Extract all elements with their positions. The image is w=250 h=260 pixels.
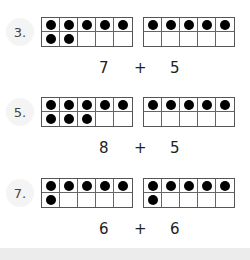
plus-operator: + xyxy=(134,220,147,238)
counter-dot-icon xyxy=(64,100,74,110)
counter-dot-icon xyxy=(46,195,56,205)
ten-frame-cell xyxy=(180,112,198,126)
ten-frame-right xyxy=(143,17,235,47)
ten-frame-cell xyxy=(78,179,96,193)
counter-dot-icon xyxy=(184,181,194,191)
counter-dot-icon xyxy=(82,181,92,191)
ten-frame-cell xyxy=(60,98,78,112)
ten-frame-cell xyxy=(198,98,216,112)
footer-band xyxy=(0,248,250,260)
counter-dot-icon xyxy=(184,100,194,110)
ten-frame-cell xyxy=(216,32,234,46)
problem-number-badge: 3. xyxy=(6,18,34,46)
problem-number: 3. xyxy=(14,25,26,40)
problem-number-badge: 5. xyxy=(6,98,34,126)
ten-frame-cell xyxy=(78,98,96,112)
problem-number-badge: 7. xyxy=(6,179,34,207)
counter-dot-icon xyxy=(46,114,56,124)
ten-frame-cell xyxy=(162,193,180,207)
counter-dot-icon xyxy=(46,20,56,30)
ten-frame-cell xyxy=(60,193,78,207)
ten-frame-cell xyxy=(216,18,234,32)
ten-frame-cell xyxy=(96,112,114,126)
ten-frame-cell xyxy=(144,179,162,193)
counter-dot-icon xyxy=(220,20,230,30)
ten-frame-cell xyxy=(180,32,198,46)
problem-number: 7. xyxy=(14,186,26,201)
equation: 6 + 6 xyxy=(0,220,250,238)
ten-frame-cell xyxy=(78,193,96,207)
addend-a: 6 xyxy=(99,220,109,238)
ten-frame-cell xyxy=(60,179,78,193)
ten-frame-cell xyxy=(216,112,234,126)
ten-frame-cell xyxy=(96,193,114,207)
counter-dot-icon xyxy=(202,20,212,30)
ten-frame-cell xyxy=(162,179,180,193)
counter-dot-icon xyxy=(166,100,176,110)
ten-frame-cell xyxy=(78,18,96,32)
ten-frame-cell xyxy=(42,193,60,207)
ten-frame-cell xyxy=(96,32,114,46)
ten-frame-cell xyxy=(60,32,78,46)
counter-dot-icon xyxy=(100,20,110,30)
ten-frame-cell xyxy=(162,112,180,126)
counter-dot-icon xyxy=(64,34,74,44)
ten-frame-cell xyxy=(144,112,162,126)
plus-operator: + xyxy=(134,59,147,77)
counter-dot-icon xyxy=(46,34,56,44)
addend-a: 7 xyxy=(99,59,109,77)
ten-frame-cell xyxy=(144,98,162,112)
counter-dot-icon xyxy=(166,181,176,191)
ten-frame-cell xyxy=(198,32,216,46)
ten-frame-cell xyxy=(180,98,198,112)
counter-dot-icon xyxy=(46,181,56,191)
ten-frame-right xyxy=(143,97,235,127)
counter-dot-icon xyxy=(118,100,128,110)
addend-b: 6 xyxy=(170,220,180,238)
counter-dot-icon xyxy=(202,181,212,191)
ten-frame-cell xyxy=(198,18,216,32)
ten-frame-cell xyxy=(180,18,198,32)
counter-dot-icon xyxy=(148,195,158,205)
ten-frame-left xyxy=(41,178,133,208)
ten-frame-cell xyxy=(198,179,216,193)
ten-frame-cell xyxy=(96,18,114,32)
counter-dot-icon xyxy=(64,114,74,124)
ten-frame-cell xyxy=(42,18,60,32)
ten-frame-cell xyxy=(60,18,78,32)
counter-dot-icon xyxy=(202,100,212,110)
counter-dot-icon xyxy=(100,181,110,191)
counter-dot-icon xyxy=(100,100,110,110)
ten-frame-cell xyxy=(162,18,180,32)
ten-frame-cell xyxy=(144,193,162,207)
ten-frame-cell xyxy=(216,179,234,193)
counter-dot-icon xyxy=(118,20,128,30)
counter-dot-icon xyxy=(148,20,158,30)
ten-frame-cell xyxy=(114,98,132,112)
ten-frame-cell xyxy=(198,193,216,207)
ten-frame-cell xyxy=(144,18,162,32)
ten-frame-cell xyxy=(42,32,60,46)
ten-frame-cell xyxy=(162,98,180,112)
ten-frame-left xyxy=(41,97,133,127)
ten-frame-cell xyxy=(42,112,60,126)
ten-frame-cell xyxy=(180,179,198,193)
equation: 8 + 5 xyxy=(0,139,250,157)
counter-dot-icon xyxy=(184,20,194,30)
counter-dot-icon xyxy=(82,114,92,124)
ten-frame-cell xyxy=(96,98,114,112)
counter-dot-icon xyxy=(148,100,158,110)
ten-frame-cell xyxy=(216,193,234,207)
ten-frame-cell xyxy=(180,193,198,207)
ten-frame-cell xyxy=(114,193,132,207)
ten-frame-cell xyxy=(198,112,216,126)
ten-frame-cell xyxy=(114,18,132,32)
plus-operator: + xyxy=(134,139,147,157)
counter-dot-icon xyxy=(220,181,230,191)
counter-dot-icon xyxy=(166,20,176,30)
ten-frame-left xyxy=(41,17,133,47)
ten-frame-cell xyxy=(42,179,60,193)
addend-a: 8 xyxy=(99,139,109,157)
ten-frame-cell xyxy=(114,112,132,126)
counter-dot-icon xyxy=(64,20,74,30)
